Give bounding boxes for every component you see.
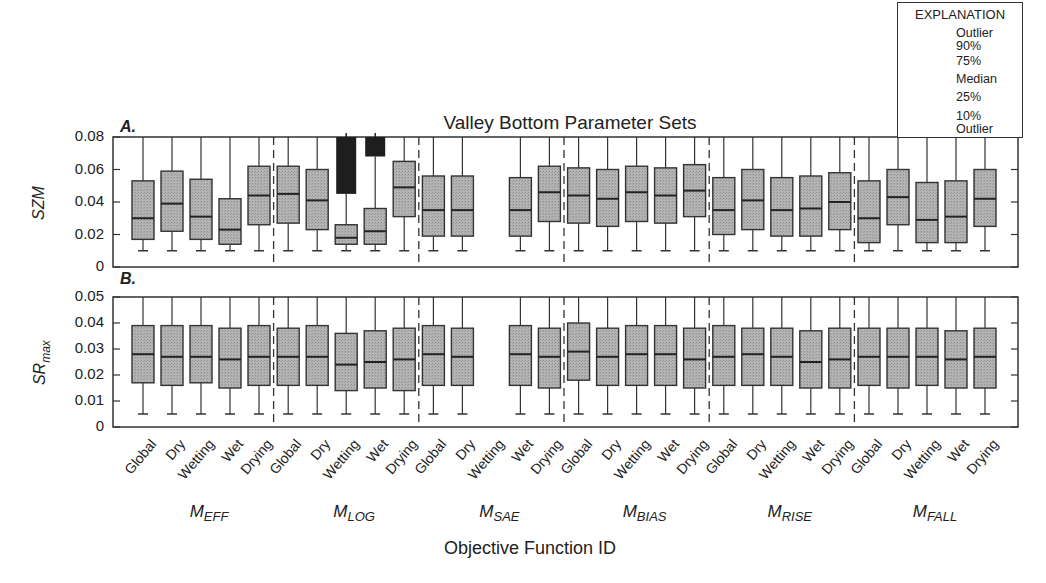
group-label: MRISE [730,502,850,524]
y-tick-label: 0.06 [56,160,104,177]
y-tick-label: 0 [56,417,104,434]
group-label: MFALL [875,502,995,524]
panel-a-label: A. [120,118,136,136]
group-label: MLOG [294,502,414,524]
y-tick-label: 0.02 [56,225,104,242]
legend-p75: 75% [956,55,981,68]
group-label: MBIAS [585,502,705,524]
legend-p90: 90% [956,40,981,53]
legend-outlier-bottom: Outlier [956,123,993,136]
y-tick-label: 0 [56,257,104,274]
legend-box: EXPLANATION Outlier 90% 75% Median 25% 1… [897,2,1023,138]
y-tick-label: 0.03 [56,339,104,356]
ylabel-sub: max [39,340,53,363]
legend-median: Median [956,73,997,86]
y-tick-label: 0.04 [56,192,104,209]
panel-a-y-label: SZM [30,178,48,228]
y-tick-label: 0.02 [56,365,104,382]
panel-b-y-label: SRmax [31,333,52,393]
x-axis-title: Objective Function ID [380,538,680,559]
group-label: MEFF [149,502,269,524]
y-tick-label: 0.01 [56,391,104,408]
group-label: MSAE [439,502,559,524]
ylabel-main: SR [31,363,48,385]
legend-title: EXPLANATION [898,7,1022,22]
panel-b-label: B. [120,270,136,288]
y-tick-label: 0.08 [56,127,104,144]
panel-a-plot [113,133,1018,267]
y-tick-label: 0.05 [56,287,104,304]
panel-b-plot [113,297,1018,427]
chart-title: Valley Bottom Parameter Sets [360,112,780,134]
y-tick-label: 0.04 [56,313,104,330]
legend-p25: 25% [956,91,981,104]
